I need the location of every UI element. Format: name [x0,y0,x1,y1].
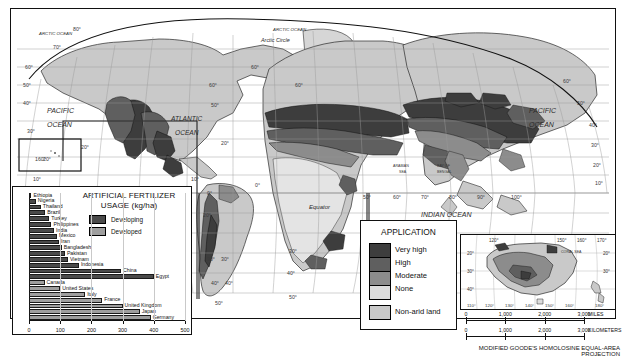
svg-text:60°: 60° [563,78,571,84]
svg-text:50°: 50° [211,102,219,108]
application-label-list: Very highHighModerateNone [395,243,427,295]
svg-text:80°: 80° [449,194,457,200]
bar-vietnam [29,257,68,262]
svg-text:40°: 40° [467,287,474,292]
svg-text:160°: 160° [565,303,574,308]
svg-text:100°: 100° [511,194,522,200]
bar-iran [29,240,59,245]
svg-text:30°: 30° [603,269,610,274]
svg-text:120°: 120° [485,303,494,308]
svg-text:30°: 30° [467,269,474,274]
svg-text:OCEAN: OCEAN [47,121,73,128]
svg-text:20°: 20° [203,212,211,218]
map-page: PACIFIC OCEAN ATLANTIC OCEAN PACIFIC OCE… [0,0,624,357]
svg-text:SEA: SEA [399,170,407,174]
svg-text:ARCTIC OCEAN: ARCTIC OCEAN [272,27,307,32]
svg-text:40°: 40° [287,270,295,276]
scale-tick [466,333,467,340]
scale-bars: 01,0002,0003,000MILES 01,0002,0003,000KI… [462,312,614,344]
bar-label-united-states: United States [62,286,93,291]
bar-label-china: China [123,268,137,273]
scale-unit: MILES [588,311,604,317]
scale-tick [584,317,585,324]
fertilizer-bar-chart: ARTIFICIAL FERTILIZER USAGE (kg/ha) Deve… [12,186,192,335]
svg-text:10°: 10° [595,180,603,186]
non-arid-label: Non-arid land [395,305,441,318]
chart-gridline [123,193,124,321]
svg-text:30°: 30° [221,256,229,262]
bar-thailand [29,205,41,210]
application-swatch-stack [369,243,391,300]
application-swatch-moderate [370,272,390,286]
application-swatch-high [370,258,390,272]
bar-indonesia [29,263,79,268]
projection-note: MODIFIED GOODE'S HOMOLOSINE EQUAL-AREA P… [446,345,620,357]
svg-text:130°: 130° [505,303,514,308]
svg-text:0°: 0° [207,190,212,196]
svg-text:PACIFIC: PACIFIC [47,107,75,114]
chart-tick [60,321,61,324]
chart-tick [185,321,186,324]
svg-text:70°: 70° [421,194,429,200]
application-legend-title: APPLICATION [361,227,456,237]
chart-gridline [185,193,186,321]
bar-label-egypt: Egypt [156,274,169,279]
chart-tick-label: 400 [149,327,158,333]
application-swatch-none [370,286,390,299]
bar-philippines [29,222,51,227]
svg-text:Arctic Circle: Arctic Circle [260,37,290,43]
bar-label-turkey: Turkey [51,216,67,221]
svg-text:10°: 10° [33,176,41,182]
bar-italy [29,292,85,297]
svg-text:20°: 20° [603,251,610,256]
chart-tick [123,321,124,324]
svg-text:70°: 70° [53,44,61,50]
application-legend: APPLICATION Very highHighModerateNone No… [360,220,457,330]
scale-tick [545,317,546,324]
svg-text:30°: 30° [591,142,599,148]
bar-label-germany: Germany [153,315,174,320]
scale-kilometers: 01,0002,0003,000KILOMETERS [462,328,614,344]
application-label-none: None [395,282,427,295]
scale-number: 0 [465,327,468,333]
svg-text:160°: 160° [35,156,46,162]
svg-text:40°: 40° [225,280,233,286]
svg-text:50°: 50° [289,294,297,300]
scale-number: 2,000 [538,311,551,317]
svg-text:40°: 40° [23,100,31,106]
non-arid-swatch [369,305,391,320]
svg-text:60°: 60° [251,64,259,70]
svg-text:20°: 20° [467,251,474,256]
bar-united-kingdom [29,304,123,309]
scale-tick [545,333,546,340]
svg-text:160°: 160° [577,238,587,243]
bar-mexico [29,234,57,239]
bar-germany [29,315,151,320]
application-label-very-high: Very high [395,243,427,256]
bar-label-pakistan: Pakistan [67,251,87,256]
chart-plot-area: EthiopiaNigeriaThailandBrazilTurkeyPhili… [29,193,185,320]
bar-brazil [29,210,45,215]
svg-text:90°: 90° [477,194,485,200]
bar-united-states [29,286,60,291]
scale-tick [505,333,506,340]
bar-label-france: France [104,297,120,302]
svg-text:120°: 120° [489,238,499,243]
svg-text:0°: 0° [255,182,260,188]
scale-number: 1,000 [499,311,512,317]
bar-india [29,228,54,233]
scale-number: 2,000 [538,327,551,333]
chart-gridline [91,193,92,321]
chart-tick [29,321,30,324]
scale-tick [584,333,585,340]
bar-ethiopia [29,193,31,198]
svg-text:20°: 20° [81,144,89,150]
scale-line [466,336,584,337]
svg-text:60°: 60° [295,82,303,88]
svg-text:OCEAN: OCEAN [175,129,199,136]
scale-tick [505,317,506,324]
bar-turkey [29,216,49,221]
bar-label-indonesia: Indonesia [81,262,104,267]
svg-text:Equator: Equator [309,204,331,210]
svg-text:50°: 50° [23,82,31,88]
